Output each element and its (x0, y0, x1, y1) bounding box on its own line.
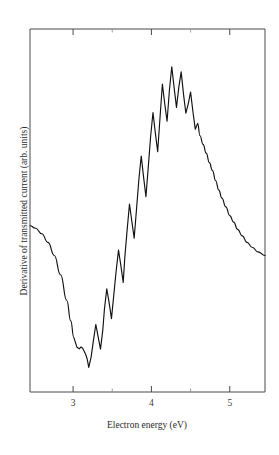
y-axis-title: Derivative of transmitted current (arb. … (19, 127, 30, 296)
figure-container: 345 Electron energy (eV) Derivative of t… (0, 0, 279, 455)
x-tick-label: 5 (227, 398, 232, 408)
x-tick-label: 4 (149, 398, 154, 408)
chart-plot-area: 345 Electron energy (eV) Derivative of t… (0, 0, 279, 455)
x-tick-label: 3 (71, 398, 76, 408)
chart-background (0, 0, 279, 455)
x-axis-title: Electron energy (eV) (107, 420, 187, 431)
